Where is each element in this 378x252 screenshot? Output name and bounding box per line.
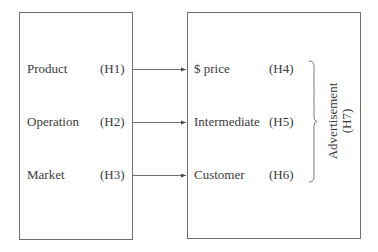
right-brace-icon xyxy=(309,61,317,182)
advertisement-label: Advertisement xyxy=(326,69,340,173)
h7-code: (H7) xyxy=(340,69,354,173)
connectors xyxy=(0,0,378,252)
advertisement-group-label: Advertisement (H7) xyxy=(326,69,354,173)
